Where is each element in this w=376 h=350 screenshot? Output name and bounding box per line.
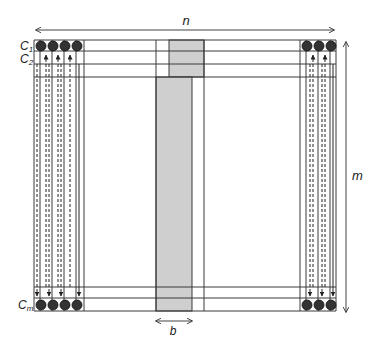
shaded-top-block: [169, 40, 204, 77]
cell-dot: [326, 41, 336, 51]
right-column-lines: [300, 40, 336, 311]
cell-dot: [72, 300, 82, 310]
cell-dot: [326, 300, 336, 310]
cell-dot: [48, 300, 58, 310]
cell-dot: [36, 300, 46, 310]
cell-dot: [314, 300, 324, 310]
row-label-c2: C2: [20, 52, 34, 67]
left-column-arrows: [37, 55, 79, 296]
block-width-label: b: [170, 324, 177, 338]
width-label: n: [182, 13, 189, 28]
bottom-right-cell-dots: [302, 300, 336, 310]
top-right-cell-dots: [302, 41, 336, 51]
left-column-lines: [34, 40, 84, 311]
cell-dot: [302, 41, 312, 51]
matrix-diagram: n m: [0, 0, 376, 350]
top-left-cell-dots: [36, 41, 82, 51]
shaded-column-block: [156, 77, 192, 311]
row-label-cm: Cm: [18, 298, 34, 313]
cell-dot: [48, 41, 58, 51]
bottom-left-cell-dots: [36, 300, 82, 310]
cell-dot: [60, 41, 70, 51]
height-label: m: [352, 168, 363, 183]
cell-dot: [36, 41, 46, 51]
cell-dot: [302, 300, 312, 310]
cell-dot: [72, 41, 82, 51]
cell-dot: [60, 300, 70, 310]
cell-dot: [314, 41, 324, 51]
